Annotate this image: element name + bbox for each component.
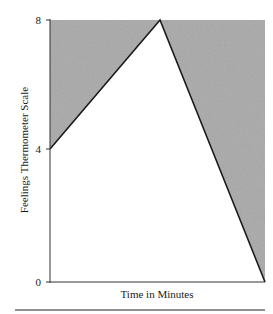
feelings-thermometer-chart: 8 4 0 Time in Minutes Feelings Thermomet… bbox=[0, 0, 273, 314]
x-axis-title: Time in Minutes bbox=[121, 288, 194, 300]
y-tick-label-4: 4 bbox=[36, 143, 42, 155]
y-tick-label-0: 0 bbox=[36, 276, 42, 288]
y-axis-title: Feelings Thermometer Scale bbox=[18, 87, 30, 213]
y-tick-label-8: 8 bbox=[36, 14, 42, 26]
